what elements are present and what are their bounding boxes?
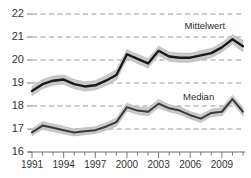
line-chart: 22212019181716 1991199419972000200320062… xyxy=(0,0,251,178)
x-tick-label: 1991 xyxy=(17,159,47,170)
y-tick-label: 21 xyxy=(2,30,24,42)
confidence-bands xyxy=(32,35,243,136)
x-axis xyxy=(27,14,245,158)
y-tick-label: 16 xyxy=(2,145,24,157)
x-tick-label: 2009 xyxy=(207,159,237,170)
x-tick-label: 1994 xyxy=(49,159,79,170)
y-tick-label: 19 xyxy=(2,76,24,88)
x-tick-label: 2003 xyxy=(144,159,174,170)
series-label-mittelwert: Mittelwert xyxy=(185,20,226,31)
y-tick-label: 18 xyxy=(2,99,24,111)
x-tick-label: 2000 xyxy=(112,159,142,170)
series-label-median: Median xyxy=(183,91,214,102)
y-tick-label: 17 xyxy=(2,122,24,134)
y-tick-label: 20 xyxy=(2,53,24,65)
x-tick-label: 1997 xyxy=(80,159,110,170)
y-tick-label: 22 xyxy=(2,7,24,19)
x-tick-label: 2006 xyxy=(175,159,205,170)
band-mittelwert xyxy=(32,35,243,96)
series-lines xyxy=(32,39,243,132)
